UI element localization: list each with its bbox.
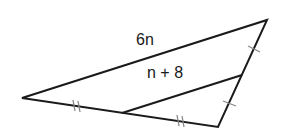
triangle-diagram [0, 0, 283, 136]
label-long-side: 6n [136, 31, 154, 49]
label-midsegment: n + 8 [147, 64, 183, 82]
